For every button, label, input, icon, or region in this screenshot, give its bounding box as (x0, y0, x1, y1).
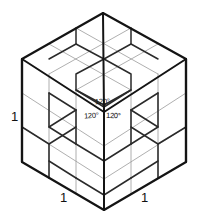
figure-canvas: 1 1 1 120° 120° 120° (0, 0, 204, 223)
angle-label-left: 120° (84, 112, 99, 120)
edge-length-label-left: 1 (11, 110, 18, 123)
angle-label-top: 120° (95, 98, 110, 106)
isometric-cube-diagram (0, 0, 204, 223)
angle-label-right: 120° (106, 112, 121, 120)
edge-length-label-bottom-right: 1 (141, 191, 148, 204)
edge-length-label-bottom-left: 1 (60, 191, 67, 204)
